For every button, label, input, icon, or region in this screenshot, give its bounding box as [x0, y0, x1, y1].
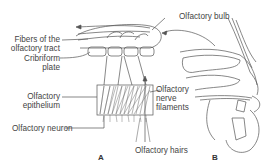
oral-cavity: [207, 100, 215, 140]
label-olfactory-neuron: Olfactory neuron: [12, 124, 73, 133]
nasal-cavity-roof: [180, 49, 257, 85]
olfactory-diagram: Olfactory bulb Fibers of the olfactory t…: [0, 0, 265, 165]
label-nerve-line1: Olfactory: [156, 85, 189, 94]
tract-fiber: [78, 26, 150, 28]
lip: [252, 96, 260, 112]
turbinate-upper: [182, 55, 240, 72]
diagram-artwork: [0, 0, 265, 165]
chin: [226, 110, 259, 152]
label-fibers-line1: Fibers of the: [10, 35, 60, 44]
label-cribriform-line2: plate: [10, 63, 60, 72]
palate: [195, 96, 252, 98]
teeth-lower: [232, 118, 246, 140]
label-epithelium-line1: Olfactory: [10, 92, 60, 101]
label-fibers-line2: olfactory tract: [5, 44, 60, 53]
nasal-bone: [228, 18, 258, 95]
tract-fiber: [78, 36, 140, 40]
teeth-upper: [236, 100, 246, 112]
panel-label-b: B: [212, 153, 218, 162]
turbinate-middle: [186, 75, 240, 90]
label-olfactory-hairs: Olfactory hairs: [135, 146, 188, 155]
label-nerve-line2: nerve: [156, 94, 176, 103]
panel-label-a: A: [98, 153, 104, 162]
label-olfactory-bulb: Olfactory bulb: [179, 12, 230, 21]
olfactory-bulb-b-arrow: [165, 30, 215, 46]
arrow-head-icon: [76, 25, 81, 29]
label-cribriform-line1: Cribriform: [10, 54, 60, 63]
label-epithelium-line2: epithelium: [10, 101, 60, 110]
label-nerve-line3: filaments: [156, 103, 189, 112]
